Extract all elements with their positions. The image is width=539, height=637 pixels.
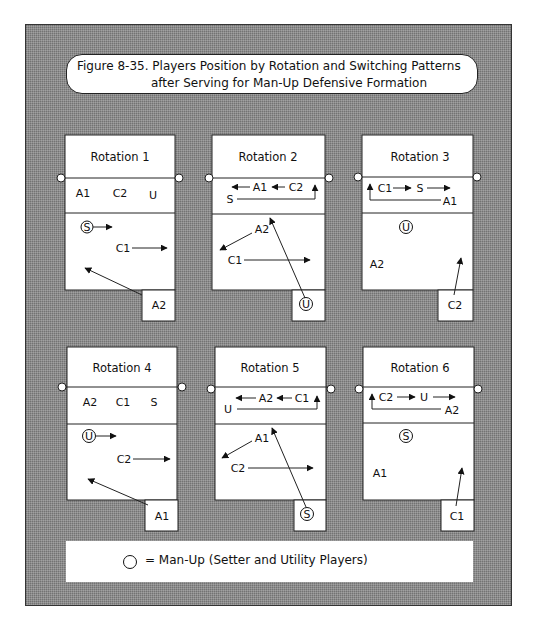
server-label: U	[302, 298, 310, 311]
rotation-title: Rotation 6	[390, 361, 449, 375]
player-label: A1	[373, 467, 388, 480]
rotation-2-court: Rotation 2 A1 C2 S A2 C1 U	[205, 135, 333, 321]
player-label: S	[417, 182, 424, 195]
player-label: A1	[443, 195, 458, 208]
net-post-icon	[325, 174, 333, 182]
player-label: S	[151, 396, 158, 409]
player-label: A2	[255, 223, 270, 236]
net-post-icon	[58, 383, 66, 391]
rotation-title: Rotation 5	[240, 361, 299, 375]
player-label: U	[402, 221, 410, 234]
player-label: S	[227, 193, 234, 206]
player-label: U	[420, 391, 428, 404]
player-label: C1	[295, 392, 310, 405]
rotation-3-court: Rotation 3 C1 S A1 U A2 C2	[354, 135, 481, 321]
rotation-6-court: Rotation 6 C2 U A2 S A1 C1	[355, 347, 482, 531]
player-label: A1	[255, 432, 270, 445]
player-label: A2	[259, 392, 274, 405]
net-post-icon	[474, 385, 482, 393]
player-label: U	[149, 189, 157, 202]
server-label: C1	[450, 510, 465, 523]
net-post-icon	[178, 383, 186, 391]
player-label: C1	[378, 182, 393, 195]
player-label: C1	[228, 254, 243, 267]
net-post-icon	[207, 385, 215, 393]
player-label: C2	[289, 181, 304, 194]
player-label: C1	[116, 242, 131, 255]
net-post-icon	[205, 174, 213, 182]
player-label: A2	[83, 396, 98, 409]
net-post-icon	[175, 174, 183, 182]
player-label: C2	[117, 453, 132, 466]
player-label: A2	[370, 258, 385, 271]
player-label: U	[85, 430, 93, 443]
player-label: A1	[253, 181, 268, 194]
player-label: C1	[116, 396, 131, 409]
server-label: A2	[152, 299, 167, 312]
net-post-icon	[327, 385, 335, 393]
player-label: U	[224, 403, 232, 416]
player-label: S	[403, 430, 410, 443]
net-post-icon	[57, 174, 65, 182]
net-post-icon	[355, 385, 363, 393]
server-label: S	[304, 508, 311, 521]
player-label: C2	[379, 391, 394, 404]
rotation-diagrams: Rotation 1 A1 C2 U S C1 A2 Rotation 2 A1…	[0, 0, 539, 637]
rotation-title: Rotation 1	[90, 150, 149, 164]
rotation-5-court: Rotation 5 A2 C1 U A1 C2 S	[207, 347, 335, 531]
player-label: A1	[76, 187, 91, 200]
server-label: A1	[155, 510, 170, 523]
player-label: A2	[445, 404, 460, 417]
net-post-icon	[473, 173, 481, 181]
rotation-4-court: Rotation 4 A2 C1 S U C2 A1	[58, 347, 186, 531]
rotation-title: Rotation 4	[92, 361, 151, 375]
player-label: C2	[231, 462, 246, 475]
player-label: S	[84, 221, 91, 234]
server-label: C2	[448, 299, 463, 312]
rotation-title: Rotation 2	[238, 150, 297, 164]
net-post-icon	[354, 173, 362, 181]
rotation-1-court: Rotation 1 A1 C2 U S C1 A2	[57, 135, 183, 321]
rotation-title: Rotation 3	[390, 150, 449, 164]
player-label: C2	[113, 187, 128, 200]
